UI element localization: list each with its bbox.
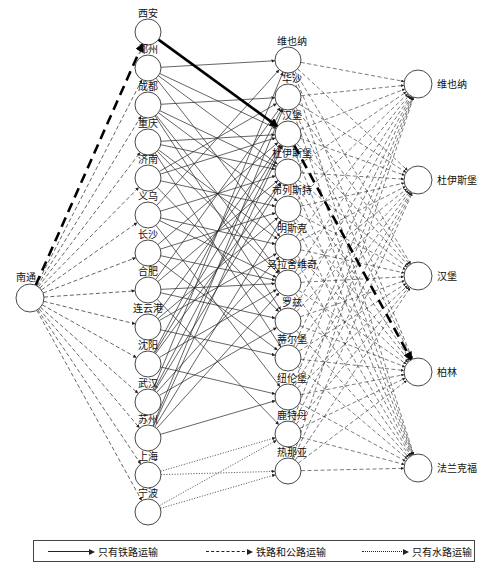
node-circle — [135, 499, 161, 525]
edge-solid — [155, 183, 281, 391]
node-zhengzhou: 郑州 — [135, 43, 161, 81]
edge-dashed — [298, 366, 407, 459]
node-label: 苏州 — [138, 413, 158, 425]
node-circle — [404, 358, 432, 386]
node-xian: 西安 — [135, 7, 161, 45]
edge-dashed — [293, 97, 413, 385]
node-circle — [135, 462, 161, 488]
edge-dashed — [300, 89, 405, 129]
node-d_hamburg: 汉堡 — [404, 262, 457, 290]
edge-dashed — [301, 437, 405, 464]
edge-dashed — [301, 85, 404, 95]
node-t_minsk: 明斯克 — [275, 222, 307, 260]
node-label: 汉堡 — [282, 109, 302, 121]
node-chengdu: 成都 — [135, 81, 161, 118]
node-label: 布列斯特 — [272, 184, 312, 196]
edge-solid — [161, 145, 276, 170]
node-label: 济南 — [138, 153, 158, 165]
node-circle — [404, 70, 432, 98]
node-circle — [135, 92, 161, 118]
dashed-arrow-icon — [206, 551, 250, 552]
node-d_duisburg: 杜伊斯堡 — [404, 166, 477, 194]
node-label: 鹿特丹 — [277, 409, 307, 421]
node-circle — [135, 240, 161, 266]
edge-dashed — [38, 310, 141, 465]
node-label: 维也纳 — [277, 35, 307, 47]
edge-dashed — [301, 62, 404, 81]
edge-dashed — [39, 309, 140, 428]
edge-solid — [155, 220, 281, 427]
node-circle — [135, 277, 161, 303]
legend-water-only: 只有水路运输 — [362, 541, 472, 561]
edge-dashed — [37, 310, 142, 500]
node-circle — [135, 351, 161, 377]
edge-dashed — [43, 258, 136, 293]
edge-dashed — [295, 96, 410, 272]
node-label: 明斯克 — [277, 222, 307, 234]
node-label: 热那亚 — [277, 446, 307, 458]
edge-solid — [160, 401, 275, 435]
node-circle — [275, 121, 301, 147]
edge-dashed — [294, 192, 412, 422]
node-label: 重庆 — [138, 117, 158, 129]
node-label: 罗兹 — [282, 297, 302, 308]
edge-dashed — [298, 69, 408, 171]
node-shenyang: 沈阳 — [135, 339, 161, 377]
node-circle — [16, 284, 44, 312]
node-suzhou: 苏州 — [135, 413, 161, 451]
node-label: 法兰克福 — [437, 462, 477, 474]
edge-dashed — [294, 109, 412, 360]
node-label: 纽伦堡 — [277, 372, 307, 384]
legend-water-only-label: 只有水路运输 — [412, 544, 472, 559]
edge-dotted — [160, 438, 275, 472]
edge-solid — [159, 328, 276, 396]
edge-dashed — [298, 180, 407, 267]
node-circle — [135, 389, 161, 415]
edge-dashed — [301, 375, 404, 395]
edge-dashed — [295, 183, 410, 360]
node-circle — [135, 55, 161, 81]
node-label: 南通 — [16, 271, 36, 283]
edge-solid — [161, 98, 275, 105]
edge-dashed — [295, 71, 411, 264]
edge-dashed — [296, 108, 410, 265]
edge-dashed — [294, 221, 412, 456]
node-circle — [275, 308, 301, 334]
node-label: 华沙 — [282, 72, 302, 84]
node-changsha: 长沙 — [135, 229, 161, 266]
node-circle — [404, 262, 432, 290]
node-circle — [275, 234, 301, 260]
node-circle — [275, 384, 301, 410]
node-circle — [275, 345, 301, 371]
node-t_malaszewicze: 马拉舍维奇 — [267, 258, 317, 296]
node-circle — [135, 165, 161, 191]
edge-dashed — [299, 104, 406, 172]
node-label: 马拉舍维奇 — [267, 258, 317, 270]
legend-rail-only: 只有铁路运输 — [48, 541, 158, 561]
node-wuhan: 武汉 — [135, 377, 161, 415]
node-label: 杜伊斯堡 — [272, 147, 312, 159]
node-label: 长沙 — [138, 229, 158, 240]
node-yiwu: 义乌 — [135, 190, 161, 228]
node-t_warsaw: 华沙 — [275, 72, 302, 110]
legend-rail-and-road-label: 铁路和公路运输 — [256, 544, 326, 559]
edge-solid — [161, 61, 275, 68]
edge-solid — [157, 70, 280, 206]
edge-dashed — [301, 468, 404, 470]
node-circle — [275, 458, 301, 484]
node-label: 蒂尔堡 — [277, 333, 307, 345]
edge-dotted — [161, 471, 275, 474]
node-circle — [275, 270, 301, 296]
node-circle — [275, 421, 301, 447]
network-diagram: 南通西安郑州成都重庆济南义乌长沙合肥连云港沈阳武汉苏州上海宁波维也纳华沙汉堡杜伊… — [0, 0, 486, 574]
edge-dashed — [38, 152, 140, 286]
node-jinan: 济南 — [135, 153, 161, 191]
node-t_tilburg: 蒂尔堡 — [275, 333, 307, 371]
node-circle — [275, 196, 301, 222]
edge-solid — [161, 367, 276, 394]
node-circle — [404, 454, 432, 482]
node-label: 宁波 — [138, 487, 158, 499]
edge-dashed — [36, 44, 143, 285]
node-t_lodz: 罗兹 — [275, 297, 302, 334]
node-label: 成都 — [138, 81, 158, 92]
